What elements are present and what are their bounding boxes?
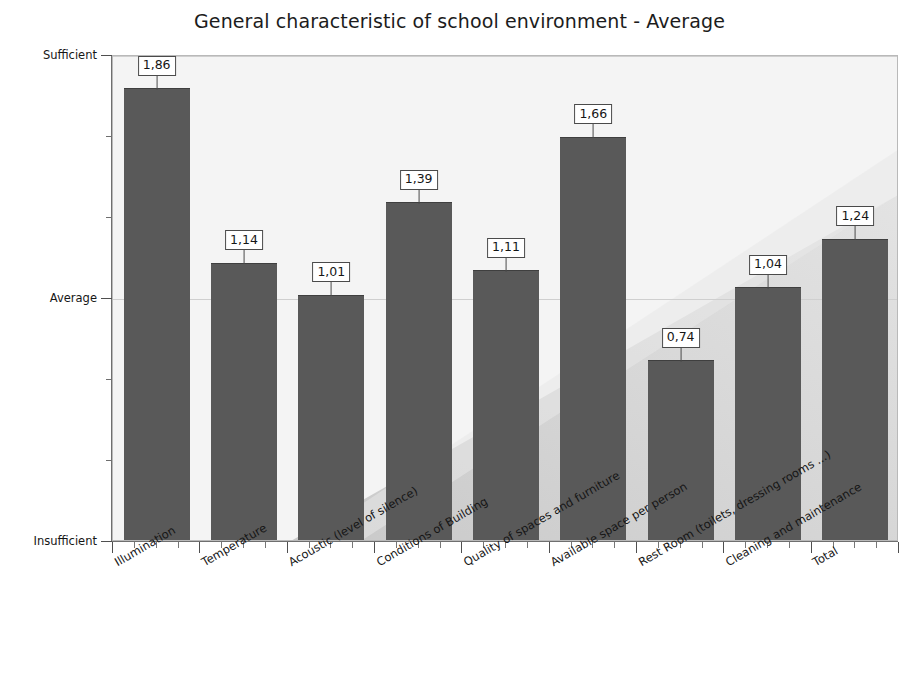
value-label-leader	[506, 258, 507, 272]
x-tick-label: Temperature	[199, 557, 272, 571]
value-label: 1,11	[487, 236, 525, 258]
bar-series	[113, 56, 897, 540]
value-label-leader	[244, 250, 245, 264]
value-label-leader	[680, 348, 681, 362]
x-tick	[287, 542, 288, 553]
x-tick-label: Illumination	[112, 557, 180, 571]
value-label-box: 1,39	[400, 170, 438, 190]
bar	[124, 88, 190, 540]
value-label: 1,04	[749, 253, 787, 275]
x-tick-label: Total	[810, 557, 837, 571]
value-label-box: 0,74	[662, 328, 700, 348]
plot-area: 1,861,141,011,391,111,660,741,041,24	[112, 55, 898, 541]
x-tick-minor	[876, 542, 877, 548]
y-tick-label: Insufficient	[34, 534, 97, 548]
value-label: 1,86	[138, 55, 176, 76]
x-tick	[549, 542, 550, 553]
value-label-box: 1,86	[138, 56, 176, 76]
y-tick	[101, 55, 112, 56]
value-label-leader	[855, 226, 856, 240]
x-tick	[374, 542, 375, 553]
chart-title: General characteristic of school environ…	[0, 10, 919, 32]
value-label-box: 1,14	[225, 230, 263, 250]
value-label-box: 1,01	[312, 262, 350, 282]
bar	[386, 202, 452, 540]
value-label: 1,39	[400, 168, 438, 190]
y-tick-minor	[106, 136, 112, 137]
value-label-leader	[331, 282, 332, 296]
y-tick-label: Average	[50, 291, 97, 305]
y-tick	[101, 298, 112, 299]
x-tick	[461, 542, 462, 553]
bar	[298, 295, 364, 540]
value-label-leader	[418, 190, 419, 204]
x-tick	[811, 542, 812, 553]
x-tick	[112, 542, 113, 553]
value-label-box: 1,66	[574, 104, 612, 124]
x-tick-label: Cleaning and maintenance	[723, 557, 878, 571]
y-tick-label: Sufficient	[43, 48, 97, 62]
x-tick-minor	[265, 542, 266, 548]
x-axis: IlluminationTemperatureAcoustic (level o…	[112, 541, 898, 693]
x-tick-minor	[702, 542, 703, 548]
value-label: 1,24	[836, 205, 874, 227]
chart-figure: General characteristic of school environ…	[0, 0, 919, 693]
bar	[211, 263, 277, 540]
value-label: 1,66	[574, 103, 612, 125]
value-label: 1,01	[312, 261, 350, 283]
value-label-leader	[156, 76, 157, 90]
bar	[648, 360, 714, 540]
value-label-box: 1,24	[836, 206, 874, 226]
x-tick	[199, 542, 200, 553]
x-tick-minor	[854, 542, 855, 548]
y-tick-minor	[106, 379, 112, 380]
x-tick	[636, 542, 637, 553]
y-tick-minor	[106, 460, 112, 461]
x-tick-minor	[789, 542, 790, 548]
value-label-leader	[768, 275, 769, 289]
y-axis: InsufficientAverageSufficient	[0, 55, 112, 541]
y-tick	[101, 541, 112, 542]
x-tick-minor	[178, 542, 179, 548]
value-label: 1,14	[225, 229, 263, 251]
value-label-leader	[593, 124, 594, 138]
x-tick-minor	[527, 542, 528, 548]
x-tick-minor	[352, 542, 353, 548]
x-tick	[898, 542, 899, 553]
value-label-box: 1,04	[749, 255, 787, 275]
x-tick-label-text: Total	[810, 544, 840, 570]
value-label-box: 1,11	[487, 238, 525, 258]
value-label: 0,74	[662, 326, 700, 348]
y-tick-minor	[106, 217, 112, 218]
x-tick-minor	[614, 542, 615, 548]
x-tick-minor	[440, 542, 441, 548]
x-tick	[723, 542, 724, 553]
